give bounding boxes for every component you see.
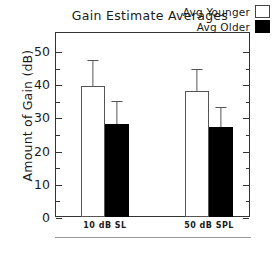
bottom-rule <box>55 237 251 238</box>
y-tick-major <box>56 52 62 53</box>
x-tick-label: 10 dB SL <box>83 221 126 230</box>
error-bar-avg-older-1 <box>209 107 233 127</box>
error-bar-avg-younger-0 <box>81 60 105 86</box>
error-bar-avg-younger-1 <box>185 69 209 91</box>
legend-label: Avg Younger <box>183 6 250 18</box>
bar-avg-older-0 <box>105 124 129 217</box>
y-tick-major <box>56 218 62 219</box>
error-bar-cap <box>112 101 123 102</box>
y-tick-minor-right <box>246 69 250 70</box>
bar-avg-younger-0 <box>81 86 105 217</box>
error-bar-cap <box>192 69 203 70</box>
legend-item-avg-younger: Avg Younger <box>183 5 270 18</box>
y-tick-major-right <box>243 52 249 53</box>
error-bar-cap <box>88 60 99 61</box>
y-tick-minor <box>56 168 60 169</box>
y-tick-label: 30 <box>20 110 50 125</box>
y-tick-major-right <box>243 85 249 86</box>
y-tick-minor-right <box>246 201 250 202</box>
y-tick-minor-right <box>246 102 250 103</box>
error-bar-stem <box>196 69 197 91</box>
error-bar-stem <box>220 107 221 127</box>
x-tick-label: 50 dB SPL <box>184 221 234 230</box>
y-tick-major <box>56 85 62 86</box>
y-tick-major <box>56 118 62 119</box>
legend: Avg YoungerAvg Older <box>183 5 270 33</box>
error-bar-avg-older-0 <box>105 101 129 124</box>
legend-swatch-filled <box>255 20 270 33</box>
y-tick-minor <box>56 201 60 202</box>
bar-avg-younger-1 <box>185 91 209 217</box>
y-tick-minor-right <box>246 135 250 136</box>
legend-item-avg-older: Avg Older <box>183 20 270 33</box>
y-tick-minor <box>56 102 60 103</box>
y-tick-major <box>56 152 62 153</box>
y-tick-label: 40 <box>20 77 50 92</box>
figure-container: Gain Estimate Averages Amount of Gain (d… <box>0 0 276 260</box>
y-tick-major-right <box>243 118 249 119</box>
y-tick-label: 50 <box>20 44 50 59</box>
error-bar-stem <box>92 60 93 86</box>
y-tick-major-right <box>243 152 249 153</box>
y-tick-minor <box>56 69 60 70</box>
y-tick-minor <box>56 135 60 136</box>
y-tick-label: 0 <box>20 210 50 225</box>
y-tick-label: 10 <box>20 176 50 191</box>
y-tick-label: 20 <box>20 143 50 158</box>
legend-swatch-open <box>255 5 270 18</box>
y-tick-major <box>56 185 62 186</box>
y-tick-minor-right <box>246 168 250 169</box>
y-tick-major-right <box>243 218 249 219</box>
y-tick-major-right <box>243 185 249 186</box>
legend-label: Avg Older <box>197 21 250 33</box>
bar-avg-older-1 <box>209 127 233 217</box>
error-bar-cap <box>216 107 227 108</box>
error-bar-stem <box>116 101 117 124</box>
